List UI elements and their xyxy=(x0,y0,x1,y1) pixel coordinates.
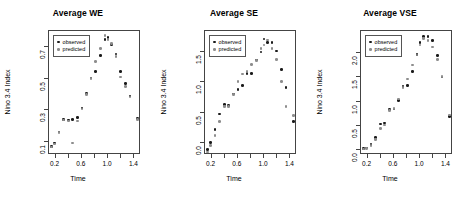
chart-legend: observedpredicted xyxy=(209,35,246,57)
x-tick-mark xyxy=(289,154,290,158)
data-point-predicted xyxy=(53,143,56,146)
legend-item-observed: observed xyxy=(57,39,85,46)
data-point-observed xyxy=(271,41,274,44)
panel-title: Average WE xyxy=(0,8,156,18)
x-tick-mark xyxy=(393,154,394,158)
x-axis: 0.20.61.01.4 xyxy=(204,154,296,160)
data-point-predicted xyxy=(393,107,396,110)
data-point-predicted xyxy=(136,118,139,121)
y-tick-label: 0.0 xyxy=(351,153,358,162)
legend-marker-predicted-icon xyxy=(57,48,60,51)
data-point-predicted xyxy=(94,60,97,63)
y-tick-label: 1.0 xyxy=(195,85,202,94)
y-axis-title: Nino 3.4 Index xyxy=(4,30,16,154)
data-point-predicted xyxy=(402,86,405,89)
x-tick-label: 0.6 xyxy=(232,160,241,167)
data-point-predicted xyxy=(124,85,127,88)
data-point-observed xyxy=(237,88,240,91)
data-point-predicted xyxy=(365,147,368,150)
data-point-observed xyxy=(218,113,221,116)
data-point-observed xyxy=(119,70,122,73)
plot-area: observedpredicted xyxy=(48,30,140,154)
x-tick-label: 0.2 xyxy=(206,160,215,167)
y-axis-title: Nino 3.4 Index xyxy=(160,30,172,154)
legend-marker-observed-icon xyxy=(57,41,60,44)
x-axis-title: Time xyxy=(312,175,468,182)
legend-marker-observed-icon xyxy=(369,41,372,44)
data-point-predicted xyxy=(107,38,110,41)
y-tick-label: 1.5 xyxy=(351,80,358,89)
x-tick-label: 1.0 xyxy=(259,160,268,167)
y-tick-label: 2.0 xyxy=(351,56,358,65)
data-point-predicted xyxy=(50,146,53,149)
y-tick-label: 0.1 xyxy=(39,145,46,154)
data-point-observed xyxy=(214,128,217,131)
chart-panel-2: Average VSENino 3.4 Index0.00.51.01.52.0… xyxy=(312,0,468,200)
x-tick-mark xyxy=(68,154,69,158)
legend-label-predicted: predicted xyxy=(375,46,398,53)
data-point-predicted xyxy=(441,75,444,78)
y-tick-label: 0.5 xyxy=(39,82,46,91)
x-axis: 0.20.61.01.4 xyxy=(48,154,140,160)
data-point-predicted xyxy=(67,120,70,123)
data-point-predicted xyxy=(416,54,419,57)
chart-panel-0: Average WENino 3.4 Index0.10.30.50.7obse… xyxy=(0,0,156,200)
y-axis-title: Nino 3.4 Index xyxy=(316,30,328,154)
x-tick-label: 0.6 xyxy=(388,160,397,167)
data-point-predicted xyxy=(71,142,74,145)
data-point-predicted xyxy=(232,93,235,96)
x-tick-mark xyxy=(133,154,134,158)
data-point-predicted xyxy=(379,127,382,130)
data-point-predicted xyxy=(406,78,409,81)
data-point-observed xyxy=(285,86,288,89)
data-point-observed xyxy=(104,38,107,41)
data-point-predicted xyxy=(214,134,217,137)
data-point-predicted xyxy=(241,73,244,76)
data-point-predicted xyxy=(271,47,274,50)
data-point-predicted xyxy=(119,76,122,79)
x-axis: 0.20.61.01.4 xyxy=(360,154,452,160)
legend-item-predicted: predicted xyxy=(213,46,241,53)
legend-marker-predicted-icon xyxy=(369,48,372,51)
data-point-observed xyxy=(94,70,97,73)
data-point-observed xyxy=(71,118,74,121)
x-tick-mark xyxy=(406,154,407,158)
data-point-predicted xyxy=(223,105,226,108)
x-tick-mark xyxy=(419,154,420,158)
data-point-observed xyxy=(76,116,79,119)
y-tick-label: 0.5 xyxy=(195,116,202,125)
legend-marker-predicted-icon xyxy=(213,48,216,51)
y-tick-label: 0.7 xyxy=(39,50,46,59)
x-tick-mark xyxy=(432,154,433,158)
panel-title: Average VSE xyxy=(312,8,468,18)
data-point-observed xyxy=(292,120,295,123)
data-point-predicted xyxy=(218,120,221,123)
x-tick-mark xyxy=(211,154,212,158)
x-axis-title: Time xyxy=(0,175,156,182)
data-point-observed xyxy=(436,54,439,57)
x-tick-mark xyxy=(380,154,381,158)
data-point-predicted xyxy=(370,144,373,147)
data-point-predicted xyxy=(383,124,386,127)
x-tick-label: 1.4 xyxy=(441,160,450,167)
data-point-observed xyxy=(275,50,278,53)
x-tick-mark xyxy=(224,154,225,158)
x-tick-mark xyxy=(263,154,264,158)
data-point-predicted xyxy=(81,108,84,111)
x-tick-mark xyxy=(55,154,56,158)
data-point-observed xyxy=(263,38,266,41)
y-tick-label: 1.5 xyxy=(195,55,202,64)
chart-panel-1: Average SENino 3.4 Index0.00.51.01.5obse… xyxy=(156,0,312,200)
x-tick-mark xyxy=(237,154,238,158)
data-point-predicted xyxy=(250,63,253,66)
legend-item-predicted: predicted xyxy=(57,46,85,53)
data-point-predicted xyxy=(58,131,61,134)
data-point-predicted xyxy=(62,119,65,122)
chart-legend: observedpredicted xyxy=(365,35,402,57)
y-tick-label: 0.0 xyxy=(195,146,202,155)
data-point-observed xyxy=(250,72,253,75)
legend-label-observed: observed xyxy=(63,39,86,46)
panel-title: Average SE xyxy=(156,8,312,18)
data-point-predicted xyxy=(90,77,93,80)
x-tick-label: 1.4 xyxy=(285,160,294,167)
